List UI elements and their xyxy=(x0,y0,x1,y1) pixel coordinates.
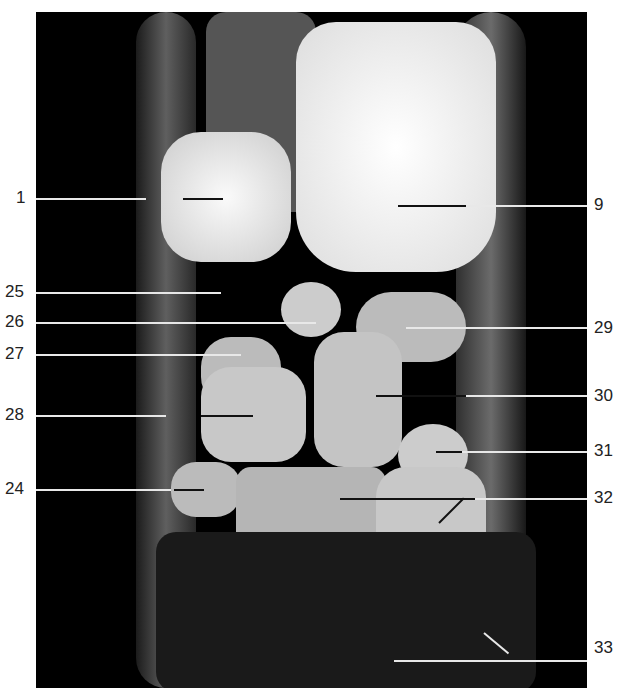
label-26: 26 xyxy=(5,313,24,330)
label-27: 27 xyxy=(5,345,24,362)
label-32: 32 xyxy=(594,489,613,506)
bone-ulna xyxy=(161,132,291,262)
label-31: 31 xyxy=(594,442,613,459)
bone-lunate xyxy=(281,282,341,337)
label-28: 28 xyxy=(5,406,24,423)
label-30: 30 xyxy=(594,387,613,404)
hand-soft-tissue xyxy=(156,532,536,688)
bone-radius xyxy=(296,22,496,272)
label-1: 1 xyxy=(16,189,25,206)
label-25: 25 xyxy=(5,283,24,300)
label-33: 33 xyxy=(594,639,613,656)
label-9: 9 xyxy=(594,196,603,213)
label-29: 29 xyxy=(594,319,613,336)
mri-image xyxy=(36,12,587,688)
label-24: 24 xyxy=(5,480,24,497)
bone-capitate xyxy=(314,332,402,467)
